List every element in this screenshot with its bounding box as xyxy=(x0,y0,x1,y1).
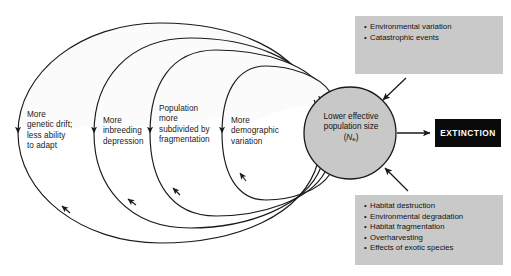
loop-label-genetic-drift: More genetic drift; less ability to adap… xyxy=(27,110,89,152)
central-node-symbol: (Ne) xyxy=(305,133,397,144)
list-item: Habitat destruction xyxy=(364,201,495,212)
stochastic-factors-box: Environmental variation Catastrophic eve… xyxy=(355,16,503,74)
extinction-label: EXTINCTION xyxy=(440,128,496,138)
loop-label-inbreeding: More inbreeding depression xyxy=(103,116,161,147)
list-item: Overharvesting xyxy=(364,233,495,244)
arrow-bottom-box-to-circle xyxy=(385,168,408,191)
loop-label-fragmentation: Population more subdivided by fragmentat… xyxy=(159,104,221,146)
list-item: Environmental degradation xyxy=(364,212,495,223)
loop-label-demographic: More demographic variation xyxy=(231,116,289,147)
human-threats-box: Habitat destruction Environmental degrad… xyxy=(355,195,503,265)
arrow-top-box-to-circle xyxy=(383,78,406,100)
list-item: Catastrophic events xyxy=(364,33,495,44)
list-item: Effects of exotic species xyxy=(364,243,495,254)
human-threats-list: Habitat destruction Environmental degrad… xyxy=(364,201,495,254)
stochastic-factors-list: Environmental variation Catastrophic eve… xyxy=(364,22,495,43)
central-node-label: Lower effective population size (Ne) xyxy=(305,112,397,145)
list-item: Habitat fragmentation xyxy=(364,222,495,233)
central-node-line1: Lower effective xyxy=(324,112,379,121)
extinction-outcome-box: EXTINCTION xyxy=(435,119,501,147)
extinction-vortex-figure: More genetic drift; less ability to adap… xyxy=(0,0,511,276)
central-node-line2: population size xyxy=(324,122,379,131)
list-item: Environmental variation xyxy=(364,22,495,33)
paren-close: ) xyxy=(356,133,359,142)
